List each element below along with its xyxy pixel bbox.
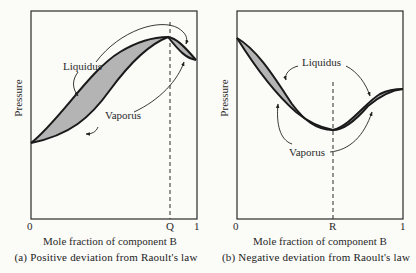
panel-b-liquidus-arrow-left xyxy=(286,66,298,80)
diagram-canvas xyxy=(0,0,416,273)
panel-b-vaporus-curve xyxy=(237,38,403,130)
panel-a-vaporus-arrow-left xyxy=(86,127,98,134)
panel-b-x-tick-0: 0 xyxy=(233,220,239,232)
panel-a-x-tick-0: 0 xyxy=(27,220,33,232)
panel-b-x-axis-label: Mole fraction of component B xyxy=(216,235,416,247)
panel-a-liquidus-label: Liquidus xyxy=(63,60,102,72)
panel-b-caption: (b) Negative deviation from Raoult's law xyxy=(212,251,416,263)
panel-a-two-phase-region-left xyxy=(31,37,168,143)
panel-b-plot xyxy=(237,11,403,219)
panel-b-x-tick-r: R xyxy=(329,220,336,232)
panel-b-vaporus-arrow-left xyxy=(278,104,292,144)
panel-b-two-phase-region-right xyxy=(333,89,403,130)
panel-b-liquidus-arrow-right xyxy=(346,66,370,96)
panel-b-frame xyxy=(237,11,403,219)
panel-b-y-axis-label: Pressure xyxy=(218,78,230,118)
panel-b-two-phase-region-left xyxy=(237,38,333,130)
panel-b-vaporus-arrow-right xyxy=(330,112,372,152)
panel-a-vaporus-arrow-right xyxy=(134,62,184,112)
panel-a-x-tick-1: 1 xyxy=(194,220,200,232)
panel-b-liquidus-label: Liquidus xyxy=(302,56,341,68)
panel-a-x-axis-label: Mole fraction of component B xyxy=(6,235,214,247)
panel-b-liquidus-curve xyxy=(237,38,403,130)
panel-a-x-tick-q: Q xyxy=(166,220,174,232)
panel-a-y-axis-label: Pressure xyxy=(12,78,24,118)
panel-b-x-tick-1: 1 xyxy=(400,220,406,232)
panel-b-vaporus-label: Vaporus xyxy=(289,146,325,158)
panel-a-vaporus-label: Vaporus xyxy=(105,109,141,121)
panel-a-caption: (a) Positive deviation from Raoult's law xyxy=(2,251,210,263)
